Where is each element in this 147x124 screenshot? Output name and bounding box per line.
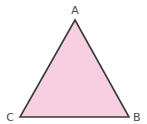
triangle-diagram: A B C [0, 0, 147, 124]
vertex-label-c: C [6, 111, 14, 124]
vertex-label-b: B [133, 111, 141, 124]
vertex-label-a: A [71, 4, 79, 17]
triangle-abc [20, 20, 129, 117]
